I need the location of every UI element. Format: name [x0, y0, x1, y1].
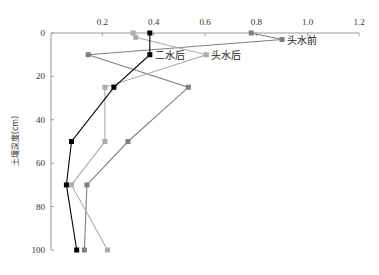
data-point-marker: [74, 248, 79, 253]
data-point-marker: [204, 52, 209, 57]
data-point-marker: [126, 139, 131, 144]
x-tick-label: 1.2: [353, 17, 364, 27]
series-group: [64, 31, 285, 253]
data-point-marker: [249, 31, 254, 36]
x-tick-label: 0.6: [199, 17, 211, 27]
y-axis-title: 土壤深度(cm): [10, 116, 20, 166]
series-line: [84, 33, 282, 250]
series-line: [66, 33, 149, 250]
y-tick-label: 0: [41, 28, 46, 38]
data-point-marker: [102, 139, 107, 144]
data-point-marker: [131, 31, 136, 36]
data-point-marker: [111, 85, 116, 90]
data-point-marker: [64, 182, 69, 187]
data-point-marker: [84, 182, 89, 187]
y-tick-label: 20: [36, 71, 46, 81]
y-tick-label: 40: [36, 115, 46, 125]
data-point-marker: [102, 85, 107, 90]
data-point-marker: [186, 85, 191, 90]
data-point-marker: [82, 248, 87, 253]
y-tick-label: 80: [36, 202, 46, 212]
series-1: [69, 31, 209, 253]
series-line: [72, 33, 207, 250]
y-tick-label: 100: [32, 245, 46, 255]
data-point-marker: [147, 52, 152, 57]
y-tick-label: 60: [36, 158, 46, 168]
x-tick-label: 0.4: [148, 17, 160, 27]
data-point-marker: [147, 31, 152, 36]
series-label: 头水后: [211, 50, 241, 61]
series-2: [64, 31, 152, 253]
data-point-marker: [280, 37, 285, 42]
x-tick-label: 1.0: [302, 17, 314, 27]
x-tick-label: 0.8: [251, 17, 263, 27]
data-point-marker: [69, 139, 74, 144]
series-label: 二水后: [155, 50, 185, 61]
data-point-marker: [86, 52, 91, 57]
soil-depth-chart: 0.20.40.60.81.01.2020406080100 头水前头水后二水后…: [0, 0, 379, 275]
x-tick-label: 0.2: [97, 17, 108, 27]
data-point-marker: [69, 182, 74, 187]
data-point-marker: [105, 248, 110, 253]
series-0: [82, 31, 285, 253]
data-point-marker: [133, 35, 138, 40]
series-label: 头水前: [287, 34, 317, 46]
